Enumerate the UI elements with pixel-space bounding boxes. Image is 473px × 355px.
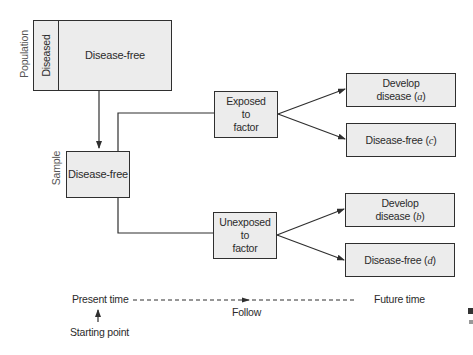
- outcome-c-box: Disease-free (c): [346, 123, 456, 157]
- exposed-label-line2: to: [242, 108, 250, 121]
- outcome-b-line2: disease (b): [375, 210, 424, 223]
- unexposed-label-line1: Unexposed: [219, 216, 270, 229]
- unexposed-to-outcome-b-arrow: [277, 209, 344, 235]
- unexposed-label-line2: to: [241, 229, 249, 242]
- population-box: Diseased Disease-free: [33, 20, 172, 91]
- exposed-group-box: Exposed to factor: [214, 91, 278, 138]
- timeline-future-time-label: Future time: [374, 293, 425, 305]
- population-disease-free-label: Disease-free: [59, 49, 171, 62]
- timeline-starting-point-label: Starting point: [70, 326, 129, 338]
- outcome-d-box: Disease-free (d): [345, 243, 455, 277]
- timeline-present-time-label: Present time: [72, 293, 129, 305]
- population-diseased-segment: Diseased: [34, 21, 59, 90]
- population-diseased-label: Diseased: [40, 28, 53, 84]
- exposed-to-outcome-a-arrow: [278, 89, 345, 114]
- outcome-b-box: Develop disease (b): [345, 193, 455, 227]
- exposed-to-outcome-c-arrow: [278, 114, 345, 139]
- unexposed-group-box: Unexposed to factor: [213, 212, 277, 259]
- outcome-d-label: Disease-free (d): [364, 254, 436, 267]
- exposed-label-line1: Exposed: [226, 95, 265, 108]
- exposed-label-line3: factor: [233, 121, 258, 134]
- cropped-edge-mark: [469, 320, 473, 324]
- outcome-a-line2: disease (a): [376, 90, 425, 103]
- timeline-arrowhead-icon: [242, 298, 250, 303]
- unexposed-to-outcome-d-arrow: [277, 235, 344, 260]
- cropped-edge-mark: [468, 308, 473, 314]
- outcome-a-line1: Develop: [382, 77, 419, 90]
- unexposed-label-line3: factor: [232, 242, 257, 255]
- outcome-c-label: Disease-free (c): [366, 134, 437, 147]
- population-side-label: Population: [18, 26, 30, 82]
- sample-to-exposed-connector: [118, 113, 214, 151]
- sample-to-unexposed-connector: [118, 198, 213, 233]
- sample-box: Disease-free: [66, 151, 130, 198]
- sample-side-label: Sample: [50, 140, 62, 196]
- outcome-b-line1: Develop: [381, 197, 418, 210]
- timeline-follow-label: Follow: [232, 306, 261, 318]
- outcome-a-box: Develop disease (a): [346, 73, 456, 107]
